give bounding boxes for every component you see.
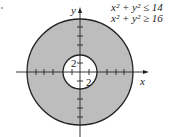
y-axis-label: y <box>71 4 76 16</box>
dot-marker <box>1 7 3 9</box>
tick-label-x-2: 2 <box>86 76 92 88</box>
x-axis-arrow-icon <box>143 70 149 74</box>
x-axis-label: x <box>140 75 145 87</box>
tick-label-y-2: 2 <box>71 57 77 69</box>
y-axis-arrow-icon <box>78 7 82 13</box>
inequality-2: x² + y² ≥ 16 <box>111 12 163 24</box>
